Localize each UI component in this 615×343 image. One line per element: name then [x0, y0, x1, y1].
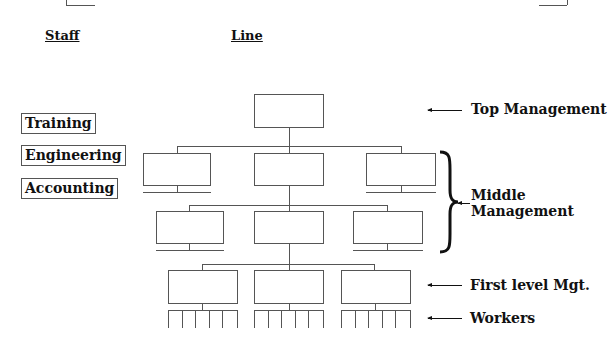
workers-rail	[341, 310, 411, 311]
connector	[289, 127, 290, 146]
worker-line	[295, 310, 296, 328]
worker-line	[168, 310, 169, 328]
workers-rail	[254, 310, 324, 311]
connector	[375, 303, 376, 310]
worker-line	[355, 310, 356, 328]
level-middle-management-line1: Middle	[471, 187, 526, 203]
middle-management-box	[254, 153, 324, 186]
top-management-box	[254, 94, 324, 128]
worker-line	[323, 310, 324, 328]
first-level-box	[168, 270, 238, 304]
connector	[177, 146, 178, 153]
middle-management-box	[254, 211, 324, 244]
worker-line	[182, 310, 183, 328]
middle-management-box	[353, 211, 423, 244]
staff-heading: Staff	[45, 28, 80, 43]
connector	[289, 243, 290, 264]
worker-line	[209, 310, 210, 328]
connector	[289, 146, 290, 153]
arrow-left-icon	[428, 285, 462, 286]
worker-line	[395, 310, 396, 328]
worker-line	[382, 310, 383, 328]
underline	[353, 250, 423, 251]
worker-line	[268, 310, 269, 328]
cropped-box-edge-right-bottom	[539, 5, 567, 6]
first-level-box	[254, 270, 324, 304]
middle-management-box	[143, 153, 211, 186]
cropped-box-edge-left-bottom	[66, 5, 95, 6]
worker-line	[308, 310, 309, 328]
staff-accounting: Accounting	[21, 178, 118, 199]
arrow-left-icon	[428, 110, 462, 111]
connector	[401, 185, 402, 192]
middle-management-box	[366, 153, 436, 186]
connector	[189, 243, 190, 250]
underline	[156, 250, 224, 251]
middle-management-box	[156, 211, 224, 244]
arrow-left-icon	[458, 203, 470, 204]
worker-line	[281, 310, 282, 328]
underline	[143, 192, 211, 193]
connector	[401, 146, 402, 153]
connector	[387, 243, 388, 250]
arrow-left-icon	[428, 318, 462, 319]
connector	[202, 303, 203, 310]
worker-line	[222, 310, 223, 328]
worker-line	[195, 310, 196, 328]
line-heading: Line	[231, 28, 263, 43]
worker-line	[254, 310, 255, 328]
staff-training: Training	[21, 113, 96, 134]
level-top-management: Top Management	[471, 101, 607, 117]
worker-line	[341, 310, 342, 328]
underline	[366, 192, 436, 193]
worker-line	[368, 310, 369, 328]
cropped-box-edge-right	[567, 0, 568, 5]
connector	[289, 185, 290, 205]
worker-line	[410, 310, 411, 328]
staff-engineering: Engineering	[21, 145, 126, 166]
first-level-box	[341, 270, 411, 304]
connector	[177, 185, 178, 192]
workers-rail	[168, 310, 238, 311]
level-workers: Workers	[470, 310, 535, 326]
connector	[289, 303, 290, 310]
worker-line	[237, 310, 238, 328]
level-first-level: First level Mgt.	[470, 277, 590, 293]
level-middle-management-line2: Management	[471, 203, 574, 219]
